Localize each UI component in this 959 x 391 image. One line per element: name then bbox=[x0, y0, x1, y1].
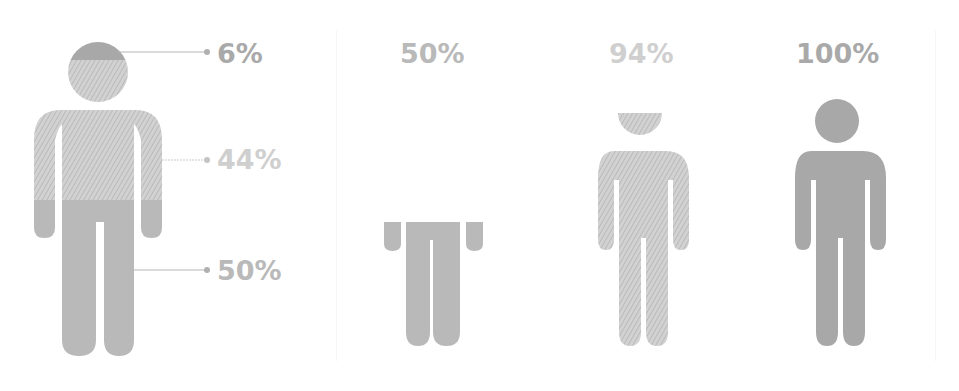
leader-dot-torso bbox=[204, 157, 210, 163]
figure-50 bbox=[384, 222, 483, 346]
legs-segment bbox=[62, 200, 134, 356]
left-arm-lower bbox=[34, 200, 55, 238]
divider-2 bbox=[935, 30, 936, 361]
figure-94 bbox=[598, 91, 689, 346]
label-torso: 44% bbox=[217, 146, 282, 173]
figure-breakdown bbox=[34, 42, 210, 356]
figure-100 bbox=[795, 99, 886, 346]
right-arm-lower bbox=[141, 200, 162, 238]
leader-dot-head bbox=[204, 49, 210, 55]
torso-segment-hatched bbox=[34, 110, 162, 200]
label-figure-94: 94% bbox=[609, 40, 674, 67]
leader-dot-legs bbox=[204, 267, 210, 273]
label-figure-50: 50% bbox=[400, 40, 465, 67]
label-head-top: 6% bbox=[217, 40, 263, 67]
label-legs: 50% bbox=[217, 257, 282, 284]
label-figure-100: 100% bbox=[796, 40, 879, 67]
divider-1 bbox=[336, 30, 337, 361]
